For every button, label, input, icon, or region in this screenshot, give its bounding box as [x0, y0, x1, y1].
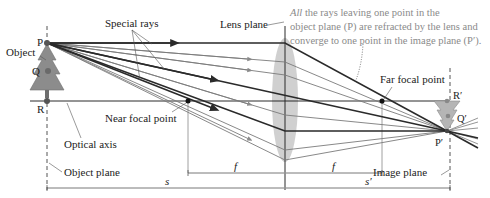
label-far-focal-point: Far focal point: [380, 73, 445, 85]
label-object-plane: Object plane: [64, 166, 120, 178]
note-line3: converge to one point in the image plane…: [290, 35, 481, 47]
point-Q: [45, 68, 51, 74]
label-object: Object: [6, 46, 35, 58]
label-P: P: [37, 36, 43, 48]
point-R-prime: [445, 99, 450, 104]
label-near-focal-point: Near focal point: [105, 112, 176, 124]
note-italic-all: All: [289, 7, 302, 18]
label-f-right: f: [332, 160, 337, 172]
thin-lens-diagram: Special rays Lens plane All the rays lea…: [0, 0, 490, 198]
point-P-prime: [445, 129, 450, 134]
label-f-left: f: [234, 160, 239, 172]
label-optical-axis: Optical axis: [64, 138, 117, 150]
label-R: R: [37, 103, 45, 115]
far-focal-point: [380, 99, 385, 104]
note-line2: object plane (P) are refracted by the le…: [290, 21, 478, 33]
label-s: s: [165, 175, 169, 187]
point-P: [44, 40, 50, 46]
label-R-prime: R′: [453, 90, 462, 101]
near-focal-point: [186, 99, 191, 104]
note-leader: [356, 44, 363, 80]
point-Q-prime: [446, 114, 451, 119]
label-P-prime: P′: [435, 137, 443, 148]
note-text: All the rays leaving one point in the: [289, 7, 440, 18]
label-image-plane: Image plane: [373, 166, 427, 178]
point-R: [44, 98, 50, 104]
diagram-canvas: Special rays Lens plane All the rays lea…: [0, 0, 490, 198]
label-special-rays: Special rays: [105, 17, 158, 29]
label-Q-prime: Q′: [457, 113, 467, 124]
note-line1-rest: the rays leaving one point in the: [302, 7, 440, 18]
label-Q: Q: [32, 65, 40, 77]
label-lens-plane: Lens plane: [220, 18, 268, 30]
label-s-prime: s′: [365, 175, 372, 187]
special-rays: [47, 43, 478, 148]
